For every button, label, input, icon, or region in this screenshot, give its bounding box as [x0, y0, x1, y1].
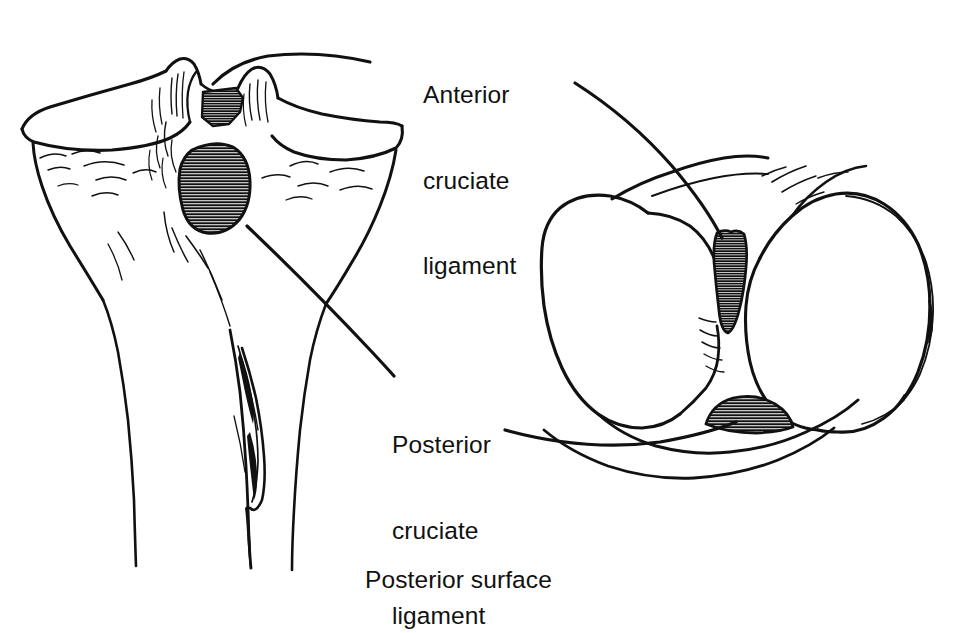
- tibia-spine-striation: [243, 94, 246, 126]
- femur-notch-striation: [699, 318, 716, 322]
- tibia-surface-line: [92, 193, 118, 196]
- tibia-lateral-border: [326, 150, 396, 304]
- tibia-surface-line: [133, 170, 156, 173]
- acl-leader-to-femur: [575, 83, 722, 238]
- tibia-spine-striation: [171, 78, 172, 114]
- femur-notch-striation: [702, 342, 720, 348]
- tibia-surface-line: [58, 184, 78, 186]
- tibia-spine-striation: [162, 158, 166, 188]
- tibia-lateral-rim-outer: [278, 98, 402, 126]
- tibia-spine-striation: [265, 82, 268, 122]
- tibia-posterior-contour: [186, 236, 208, 268]
- tibia-surface-line: [72, 151, 100, 154]
- femur-flange-line: [762, 167, 786, 176]
- tibia-posterior-contour: [118, 232, 134, 260]
- femur-posterior-flange-upper: [612, 156, 768, 199]
- posterior-surface-label: Posterior surface: [365, 509, 552, 633]
- femur-flange-line: [782, 176, 816, 192]
- femur-notch-striation: [700, 330, 718, 336]
- femur-posterior-flange-lower: [652, 174, 768, 197]
- tibia-posterior-contour: [172, 228, 188, 262]
- acl-label-line-1: Anterior: [423, 81, 516, 110]
- tibia-lateral-rim-inner: [272, 126, 402, 160]
- pcl-label-line-1: Posterior: [392, 431, 491, 460]
- tibia-surface-line: [262, 175, 290, 178]
- tibia-surface-line: [286, 197, 312, 200]
- tibia-surface-line: [330, 168, 364, 172]
- pcl-leader-to-tibia: [247, 226, 394, 376]
- acl-leader-to-tibia: [213, 54, 370, 84]
- tibia-spine-striation: [176, 74, 178, 116]
- tibia-spine-striation: [249, 84, 252, 120]
- tibia-surface-line: [290, 161, 318, 166]
- pcl-tibial-footprint: [172, 134, 262, 240]
- tibia-medial-border: [33, 143, 103, 300]
- tibia-ridge-shadow: [245, 506, 251, 570]
- tibia-medial-rim-outer: [22, 71, 166, 129]
- posterior-surface-text: Posterior surface: [365, 566, 552, 595]
- acl-label-line-3: ligament: [423, 252, 516, 281]
- tibia-posterior-view: [22, 59, 402, 570]
- tibia-posterior-contour: [210, 272, 230, 326]
- tibia-surface-line: [96, 177, 126, 180]
- tibia-shaft-lateral-edge: [292, 304, 326, 570]
- tibia-spine-striation: [159, 88, 162, 124]
- femur-inferior-view: [541, 156, 933, 478]
- acl-label-line-2: cruciate: [423, 167, 516, 196]
- tibia-shaft-medial-edge: [103, 300, 136, 566]
- tibia-spine-inner-edge: [187, 72, 196, 122]
- femur-flange-line: [772, 166, 806, 182]
- tibia-spine-striation: [152, 100, 156, 132]
- tibia-surface-line: [84, 162, 124, 166]
- tibia-surface-line: [48, 167, 70, 170]
- tibia-posterior-contour: [164, 212, 174, 252]
- tibia-spine-striation: [182, 72, 184, 118]
- femur-lateral-rim-highlight: [846, 196, 933, 414]
- tibia-spine-striation: [149, 150, 152, 180]
- tibia-spine-striation: [257, 80, 260, 120]
- tibia-surface-line: [298, 183, 328, 186]
- tibia-spine-striation: [171, 140, 176, 172]
- femur-rim-shadow: [888, 394, 908, 414]
- anterior-cruciate-ligament-label: Anterior cruciate ligament: [423, 24, 516, 338]
- femur-medial-condyle-outline: [541, 195, 680, 428]
- tibia-surface-line: [340, 186, 372, 190]
- tibia-surface-line: [40, 154, 66, 158]
- femur-medial-condyle-upper: [648, 213, 714, 258]
- tibia-posterior-contour: [108, 244, 122, 280]
